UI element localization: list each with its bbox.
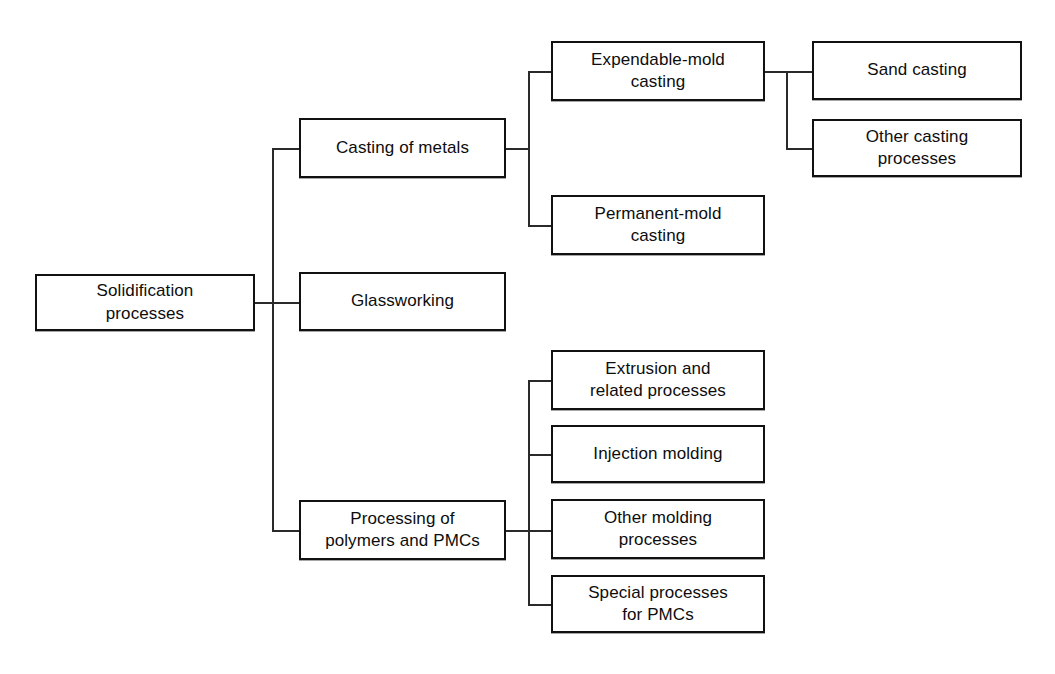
node-processing-of-polymers-and-pmcs: Processing of polymers and PMCs — [299, 500, 506, 560]
node-permanent-mold-casting: Permanent-mold casting — [551, 195, 765, 255]
node-solidification-processes: Solidification processes — [35, 274, 255, 331]
edge-to-injection-molding — [528, 454, 552, 456]
edge-to-expendable-mold — [528, 71, 552, 73]
node-label-expendable-mold-casting: Expendable-mold casting — [583, 49, 733, 94]
node-expendable-mold-casting: Expendable-mold casting — [551, 41, 765, 101]
edge-casting-stub — [506, 148, 529, 150]
solidification-processes-diagram: Solidification processes Casting of meta… — [0, 0, 1055, 674]
node-label-casting-of-metals: Casting of metals — [328, 137, 477, 159]
edge-to-extrusion — [528, 380, 552, 382]
node-label-processing-of-polymers-and-pmcs: Processing of polymers and PMCs — [317, 508, 488, 553]
edge-to-casting-of-metals — [272, 148, 300, 150]
edge-to-other-casting — [786, 148, 813, 150]
node-label-sand-casting: Sand casting — [859, 59, 975, 81]
node-label-other-casting-processes: Other casting processes — [858, 126, 976, 171]
node-label-solidification-processes: Solidification processes — [89, 280, 202, 325]
node-label-injection-molding: Injection molding — [585, 443, 730, 465]
node-sand-casting: Sand casting — [812, 41, 1022, 100]
node-label-permanent-mold-casting: Permanent-mold casting — [586, 203, 729, 248]
node-injection-molding: Injection molding — [551, 425, 765, 483]
edge-processing-stub — [506, 530, 529, 532]
edge-expendable-stub — [765, 71, 787, 73]
edge-level1-trunk — [272, 148, 274, 530]
edge-to-processing-polymers — [272, 530, 300, 532]
edge-casting-trunk — [528, 71, 530, 226]
node-extrusion-and-related-processes: Extrusion and related processes — [551, 350, 765, 410]
node-label-glassworking: Glassworking — [343, 290, 462, 312]
edge-to-glassworking — [255, 302, 300, 304]
node-glassworking: Glassworking — [299, 272, 506, 331]
node-label-other-molding-processes: Other molding processes — [596, 507, 720, 552]
edge-to-special-processes — [528, 604, 552, 606]
node-label-extrusion-and-related-processes: Extrusion and related processes — [582, 358, 734, 403]
node-other-casting-processes: Other casting processes — [812, 119, 1022, 177]
node-special-processes-for-pmcs: Special processes for PMCs — [551, 575, 765, 633]
edge-to-permanent-mold — [528, 225, 552, 227]
edge-to-other-molding — [528, 530, 552, 532]
edge-expendable-trunk — [786, 71, 788, 149]
edge-to-sand-casting — [786, 71, 813, 73]
node-label-special-processes-for-pmcs: Special processes for PMCs — [580, 582, 736, 627]
edge-processing-trunk — [528, 380, 530, 605]
node-other-molding-processes: Other molding processes — [551, 499, 765, 559]
node-casting-of-metals: Casting of metals — [299, 118, 506, 178]
